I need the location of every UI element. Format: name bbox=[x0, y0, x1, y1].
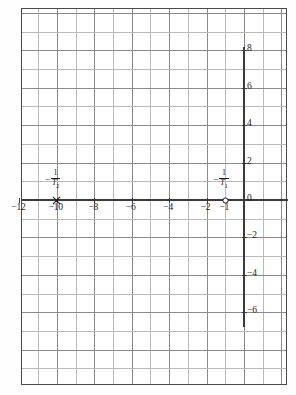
grid-line-vertical bbox=[132, 9, 133, 384]
grid-line-vertical bbox=[76, 9, 77, 384]
y-axis-tick bbox=[242, 125, 247, 126]
y-axis-label: 2 bbox=[247, 156, 252, 166]
x-axis-label: −10 bbox=[42, 202, 70, 212]
fraction-numerator: 1 bbox=[221, 169, 227, 177]
figure-canvas: −12−10−8−6−4−2−186420−2−4−6−1T2−1T1 bbox=[0, 0, 296, 395]
grid-line-horizontal bbox=[22, 331, 286, 332]
y-axis-label: −4 bbox=[247, 268, 257, 278]
y-axis-label: −6 bbox=[247, 305, 257, 315]
grid-line-vertical bbox=[150, 9, 151, 384]
x-axis-label: −12 bbox=[4, 202, 32, 212]
grid-line-horizontal bbox=[22, 350, 286, 351]
grid-line-vertical bbox=[38, 9, 39, 384]
grid-line-horizontal bbox=[22, 219, 286, 220]
fraction-stack: 1T2 bbox=[51, 169, 60, 189]
y-axis-tick bbox=[242, 163, 247, 164]
grid-line-horizontal bbox=[22, 294, 286, 295]
grid-line-horizontal bbox=[22, 144, 286, 145]
grid-line-horizontal bbox=[22, 106, 286, 107]
y-axis-tick bbox=[242, 312, 247, 313]
grid-line-horizontal bbox=[22, 13, 286, 14]
y-axis-tick bbox=[242, 200, 247, 201]
grid-line-horizontal bbox=[22, 32, 286, 33]
pole-label: −1T2 bbox=[45, 169, 61, 189]
grid-line-vertical bbox=[188, 9, 189, 384]
grid-line-vertical bbox=[113, 9, 114, 384]
y-axis-label: 8 bbox=[247, 43, 252, 53]
y-axis-label: 0 bbox=[247, 193, 252, 203]
fraction-stack: 1T1 bbox=[219, 169, 228, 189]
grid-line-horizontal bbox=[22, 256, 286, 257]
y-axis-tick bbox=[242, 50, 247, 51]
grid-line-vertical bbox=[207, 9, 208, 384]
y-axis-tick bbox=[242, 237, 247, 238]
x-axis-label: −6 bbox=[117, 202, 145, 212]
y-axis-label: 4 bbox=[247, 118, 252, 128]
grid-line-horizontal bbox=[22, 181, 286, 182]
x-axis-label: −1 bbox=[210, 202, 238, 212]
y-axis-label: 6 bbox=[247, 81, 252, 91]
x-axis-label: −8 bbox=[79, 202, 107, 212]
grid-line-vertical bbox=[94, 9, 95, 384]
fraction-denominator: T1 bbox=[219, 179, 228, 189]
grid-line-horizontal bbox=[22, 368, 286, 369]
grid-line-vertical bbox=[263, 9, 264, 384]
fraction-denominator: T2 bbox=[51, 179, 60, 189]
grid-line-horizontal bbox=[22, 69, 286, 70]
grid-line-vertical bbox=[169, 9, 170, 384]
y-axis-label: −2 bbox=[247, 230, 257, 240]
fraction-minus-sign: − bbox=[213, 175, 218, 184]
grid-line-vertical bbox=[281, 9, 282, 384]
x-axis-label: −4 bbox=[154, 202, 182, 212]
zero-label: −1T1 bbox=[213, 169, 229, 189]
y-axis-tick bbox=[242, 275, 247, 276]
y-axis-tick bbox=[242, 88, 247, 89]
fraction-minus-sign: − bbox=[45, 175, 50, 184]
fraction-numerator: 1 bbox=[53, 169, 59, 177]
